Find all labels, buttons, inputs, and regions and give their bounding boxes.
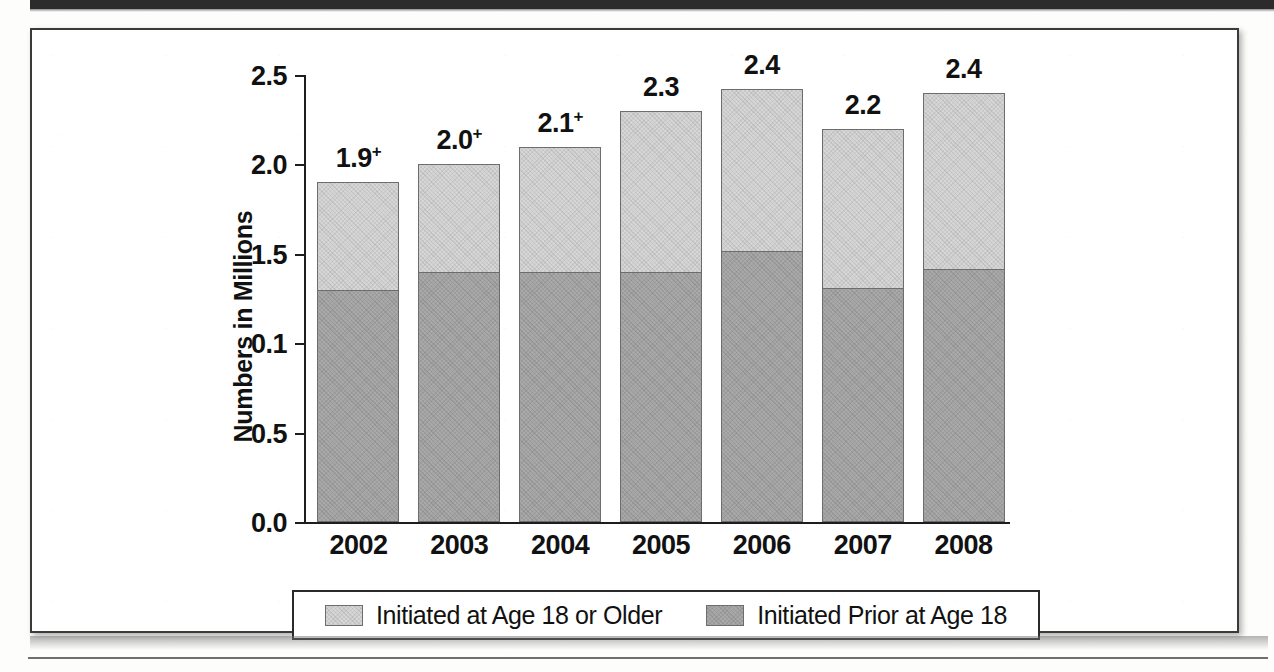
y-axis-tick: 0.0 [295, 522, 304, 524]
bar-segment-initiated-at-age-18-or-older [519, 147, 601, 274]
bar-group-2005: 2.32005 [620, 75, 702, 522]
y-axis-tick-label: 2.0 [251, 150, 287, 181]
bar-segment-initiated-prior-at-age-18 [418, 272, 500, 522]
y-axis-tick-label: 2.5 [251, 61, 287, 92]
x-axis-label-2003: 2003 [430, 530, 488, 561]
bar-group-2002: 1.9+2002 [317, 75, 399, 522]
bar-total-label-superscript: + [473, 124, 482, 143]
bar-total-label: 2.4 [946, 54, 982, 85]
x-axis-label-2005: 2005 [632, 530, 690, 561]
bar-group-2007: 2.22007 [822, 75, 904, 522]
y-axis-tick: 1.5 [295, 254, 304, 256]
bar-segment-initiated-prior-at-age-18 [721, 250, 803, 522]
plot-area: 2.52.01.50.10.50.0 1.9+20022.0+20032.1+2… [304, 75, 1010, 522]
bar-segment-initiated-at-age-18-or-older [721, 89, 803, 251]
y-axis-tick-label: 0.0 [251, 508, 287, 539]
bar-total-label: 2.3 [643, 72, 679, 103]
x-axis-label-2006: 2006 [733, 530, 791, 561]
bar-total-label: 2.0+ [437, 125, 482, 156]
legend-label: Initiated Prior at Age 18 [757, 601, 1007, 630]
chart-legend: Initiated at Age 18 or Older Initiated P… [292, 590, 1040, 640]
bar-group-2003: 2.0+2003 [418, 75, 500, 522]
bar-total-label: 2.2 [845, 90, 881, 121]
bar-total-label-superscript: + [372, 142, 381, 161]
page-bottom-shadow [30, 636, 1268, 650]
chart-frame: Numbers in Millions 2.52.01.50.10.50.0 1… [30, 28, 1239, 633]
bar-segment-initiated-at-age-18-or-older [418, 164, 500, 273]
legend-item-initiated-prior-at-age-18: Initiated Prior at Age 18 [706, 601, 1007, 630]
bar-group-2006: 2.42006 [721, 75, 803, 522]
bar-total-label: 2.4 [744, 50, 780, 81]
bar-segment-initiated-at-age-18-or-older [317, 182, 399, 291]
y-axis-tick-label: 0.1 [251, 329, 287, 360]
x-axis-label-2008: 2008 [935, 530, 993, 561]
y-axis-tick: 0.1 [295, 343, 304, 345]
bar-series-group: 1.9+20022.0+20032.1+20042.320052.420062.… [304, 75, 1010, 522]
y-axis-tick-label: 0.5 [251, 418, 287, 449]
legend-label: Initiated at Age 18 or Older [376, 601, 662, 630]
y-axis-tick: 2.0 [295, 164, 304, 166]
bar-total-label: 1.9+ [336, 143, 381, 174]
y-axis-tick: 2.5 [295, 75, 304, 77]
bar-segment-initiated-prior-at-age-18 [822, 288, 904, 522]
page-bottom-rule [28, 657, 1268, 659]
legend-swatch-icon [325, 605, 363, 626]
bar-segment-initiated-at-age-18-or-older [620, 111, 702, 273]
bar-total-label: 2.1+ [537, 108, 582, 139]
bar-segment-initiated-prior-at-age-18 [923, 268, 1005, 522]
x-axis-label-2004: 2004 [531, 530, 589, 561]
x-axis-label-2007: 2007 [834, 530, 892, 561]
legend-swatch-icon [706, 605, 744, 626]
legend-item-initiated-at-age-18-or-older: Initiated at Age 18 or Older [325, 601, 662, 630]
y-axis-tick: 0.5 [295, 433, 304, 435]
y-axis-tick-label: 1.5 [251, 239, 287, 270]
bar-segment-initiated-prior-at-age-18 [317, 290, 399, 522]
bar-group-2008: 2.42008 [923, 75, 1005, 522]
bar-segment-initiated-at-age-18-or-older [923, 93, 1005, 270]
x-axis-line [304, 522, 1010, 524]
bar-segment-initiated-prior-at-age-18 [620, 272, 702, 522]
bar-group-2004: 2.1+2004 [519, 75, 601, 522]
page-header-rule [30, 0, 1274, 9]
x-axis-label-2002: 2002 [329, 530, 387, 561]
scanned-page: Numbers in Millions 2.52.01.50.10.50.0 1… [0, 0, 1274, 672]
page-header-shadow [30, 9, 1274, 12]
bar-segment-initiated-at-age-18-or-older [822, 129, 904, 290]
bar-total-label-superscript: + [573, 107, 582, 126]
bar-segment-initiated-prior-at-age-18 [519, 272, 601, 522]
